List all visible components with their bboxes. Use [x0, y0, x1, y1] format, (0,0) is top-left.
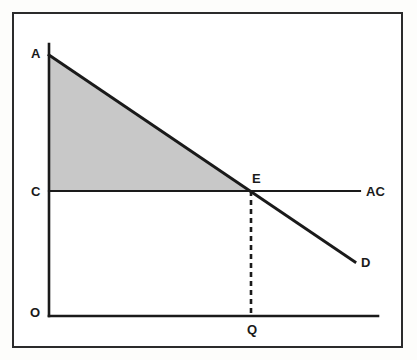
label-demand-intercept-a: A — [31, 47, 41, 60]
diagram-canvas — [0, 0, 417, 360]
figure-root: A C O E Q AC D — [0, 0, 417, 360]
label-cost-intercept-c: C — [31, 185, 41, 198]
label-quantity-q: Q — [247, 323, 257, 336]
label-equilibrium-e: E — [252, 172, 261, 185]
label-demand-curve-d: D — [361, 256, 371, 269]
label-origin-o: O — [30, 306, 40, 319]
label-average-cost-curve-ac: AC — [366, 185, 385, 198]
